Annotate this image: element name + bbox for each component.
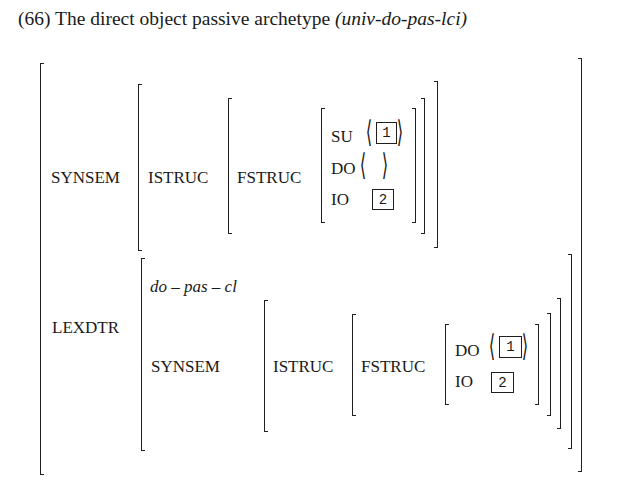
lexdtr-fstruc-attr: FSTRUC	[361, 358, 425, 375]
lexdtr-type: do – pas – cl	[150, 278, 237, 295]
fstruc-attr: FSTRUC	[237, 169, 301, 186]
lexdtr-fstruc-left-bracket	[445, 324, 449, 405]
istruc-right-bracket	[421, 98, 425, 234]
istruc-left-bracket	[228, 98, 232, 234]
right-angle-icon: ⟩	[522, 331, 528, 361]
example-title: The direct object passive archetype	[55, 8, 330, 29]
tag-box-2: 2	[491, 372, 514, 393]
feature-su: SU	[331, 128, 353, 145]
lexdtr-istruc-right-bracket	[547, 313, 551, 416]
feature-io: IO	[331, 191, 349, 208]
lexdtr-synsem-right-bracket	[557, 298, 561, 429]
synsem-right-bracket	[434, 81, 438, 248]
fstruc-right-bracket	[412, 108, 416, 223]
tag-box-1: 1	[499, 336, 522, 358]
feature-do: DO	[331, 160, 356, 177]
tag-box-2: 2	[372, 189, 394, 210]
lexdtr-right-bracket	[568, 254, 572, 449]
example-type-name: (univ-do-pas-lci)	[335, 8, 467, 29]
lexdtr-feature-io: IO	[455, 373, 473, 390]
left-angle-icon: ⟨	[360, 150, 366, 180]
left-angle-icon: ⟨	[489, 331, 495, 361]
lexdtr-fstruc-right-bracket	[535, 324, 539, 405]
lexdtr-attr: LEXDTR	[52, 319, 119, 336]
right-angle-icon: ⟩	[382, 150, 388, 180]
left-angle-icon: ⟨	[366, 117, 372, 147]
lexdtr-istruc-attr: ISTRUC	[273, 358, 333, 375]
outer-left-bracket	[40, 63, 44, 475]
fstruc-left-bracket	[321, 108, 325, 223]
synsem-attr: SYNSEM	[51, 169, 120, 186]
outer-right-bracket	[578, 58, 582, 472]
lexdtr-feature-do: DO	[455, 342, 480, 359]
lexdtr-synsem-left-bracket	[264, 300, 268, 432]
lexdtr-istruc-left-bracket	[352, 314, 356, 416]
example-caption: (66) The direct object passive archetype…	[18, 9, 467, 29]
example-number: (66)	[18, 8, 51, 29]
right-angle-icon: ⟩	[397, 117, 403, 147]
lexdtr-left-bracket	[141, 258, 145, 451]
istruc-attr: ISTRUC	[148, 169, 208, 186]
tag-box-1: 1	[376, 122, 397, 144]
lexdtr-synsem-attr: SYNSEM	[151, 358, 220, 375]
synsem-left-bracket	[138, 84, 142, 251]
